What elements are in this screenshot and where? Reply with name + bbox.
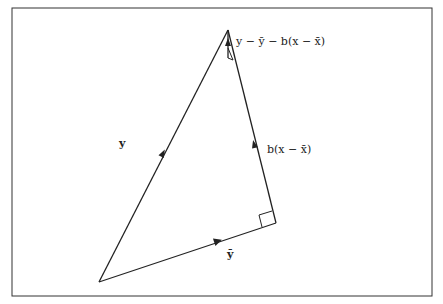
vector-ybar (99, 223, 276, 282)
label-ybar: ȳ (227, 248, 233, 261)
right-angle-marker-top (228, 48, 233, 60)
vector-fit (228, 30, 276, 223)
label-y: y (119, 137, 125, 150)
diagram-canvas (0, 0, 443, 304)
label-fit: b(x − x̄) (267, 143, 311, 156)
label-residual: y − ȳ − b(x − x̄) (236, 35, 325, 48)
frame-border (12, 8, 432, 296)
